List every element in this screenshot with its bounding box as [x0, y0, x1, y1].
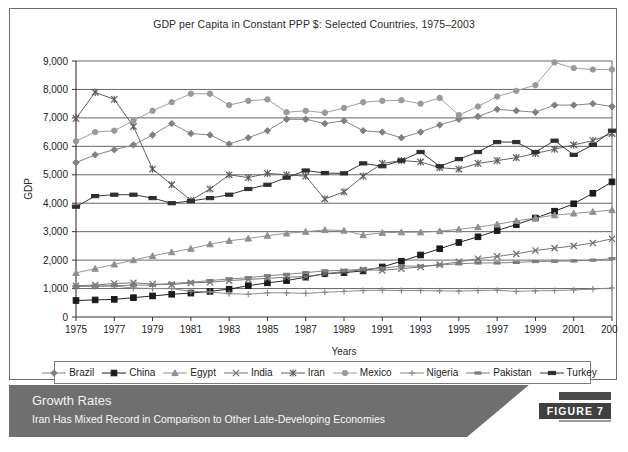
data-point-plus [571, 287, 577, 293]
data-point-circle [112, 128, 117, 133]
data-point-diamond [532, 109, 538, 115]
data-point-diamond [437, 122, 443, 128]
data-point-circle [169, 100, 174, 105]
x-tick-label: 1985 [256, 324, 279, 335]
marker-diamond [437, 122, 443, 128]
data-point-dash [92, 285, 98, 287]
data-point-asterisk [169, 181, 175, 188]
y-tick-label: 2,000 [43, 255, 68, 266]
data-point-square [111, 370, 117, 376]
data-point-plus [590, 286, 596, 292]
data-point-circle [226, 102, 231, 107]
marker-dash [188, 281, 194, 283]
data-point-dash [475, 262, 481, 264]
data-point-thickdash [436, 165, 443, 168]
data-point-circle [246, 98, 251, 103]
marker-circle [150, 108, 155, 113]
legend-label: India [249, 367, 280, 378]
marker-square [111, 370, 117, 376]
marker-diamond [303, 116, 309, 122]
data-point-plus [283, 290, 289, 296]
marker-thickdash [608, 129, 615, 132]
data-point-diamond [92, 152, 98, 158]
legend-item-nigeria[interactable]: Nigeria [399, 367, 466, 379]
legend-item-pakistan[interactable]: Pakistan [465, 367, 538, 379]
marker-dash [207, 279, 213, 281]
marker-thickdash [72, 205, 79, 208]
legend-item-iran[interactable]: Iran [280, 367, 332, 379]
data-point-triangle [609, 207, 615, 213]
marker-thickdash [321, 171, 328, 174]
marker-diamond [283, 116, 289, 122]
data-point-dash [341, 269, 347, 271]
data-point-thickdash [608, 129, 615, 132]
marker-dash [322, 270, 328, 272]
marker-thickdash [187, 199, 194, 202]
marker-square [418, 252, 424, 258]
x-tick-label: 1987 [295, 324, 318, 335]
data-point-thickdash [245, 187, 252, 190]
data-point-diamond [130, 142, 136, 148]
legend-label: Brazil [67, 367, 101, 378]
legend-item-turkey[interactable]: Turkey [539, 367, 604, 379]
data-point-thickdash [589, 143, 596, 146]
data-point-thickdash [92, 195, 99, 198]
marker-dash [552, 260, 558, 262]
legend-label: Egypt [188, 367, 223, 378]
marker-thickdash [245, 187, 252, 190]
marker-square [245, 283, 251, 289]
data-point-circle [341, 105, 346, 110]
legend-marker-asterisk-icon [280, 367, 306, 379]
marker-circle [475, 104, 480, 109]
data-point-diamond [51, 369, 57, 375]
legend-item-brazil[interactable]: Brazil [41, 367, 101, 379]
legend-item-mexico[interactable]: Mexico [332, 367, 399, 379]
data-point-asterisk [111, 96, 117, 103]
x-tick-label: 1981 [180, 324, 203, 335]
marker-diamond [417, 129, 423, 135]
marker-dash [226, 278, 232, 280]
marker-circle [494, 94, 499, 99]
banner-text-group: Growth Rates Iran Has Mixed Record in Co… [32, 392, 385, 427]
data-point-circle [284, 110, 289, 115]
marker-circle [246, 98, 251, 103]
y-tick-label: 0 [62, 312, 68, 323]
data-point-diamond [169, 120, 175, 126]
marker-diamond [551, 102, 557, 108]
plot-area: 01,0002,0003,0004,0005,0006,0007,0008,00… [10, 9, 618, 381]
data-point-asterisk [92, 89, 98, 96]
marker-diamond [322, 120, 328, 126]
legend-marker-thickdash-icon [539, 367, 565, 379]
marker-dash [73, 285, 79, 287]
data-point-asterisk [341, 188, 347, 195]
data-point-thickdash [321, 171, 328, 174]
data-point-thickdash [72, 205, 79, 208]
data-point-square [169, 291, 175, 297]
marker-dash [475, 371, 481, 373]
data-point-plus [408, 369, 414, 375]
legend-label: Iran [306, 367, 332, 378]
legend-label: China [127, 367, 162, 378]
data-point-circle [456, 112, 461, 117]
marker-thickdash [360, 162, 367, 165]
data-point-circle [188, 91, 193, 96]
x-tick-label: 1991 [371, 324, 394, 335]
marker-circle [284, 110, 289, 115]
legend-marker-plus-icon [399, 367, 425, 379]
data-point-circle [571, 65, 576, 70]
data-point-dash [532, 260, 538, 262]
data-point-dash [169, 282, 175, 284]
marker-dash [360, 268, 366, 270]
marker-thickdash [149, 197, 156, 200]
legend-item-india[interactable]: India [223, 367, 280, 379]
marker-diamond [571, 102, 577, 108]
legend-label: Turkey [565, 367, 604, 378]
y-tick-label: 9,000 [43, 56, 68, 67]
data-point-thickdash [417, 150, 424, 153]
legend-item-china[interactable]: China [101, 367, 162, 379]
data-point-circle [92, 129, 97, 134]
data-point-square [437, 246, 443, 252]
y-tick-label: 3,000 [43, 226, 68, 237]
legend-item-egypt[interactable]: Egypt [162, 367, 223, 379]
marker-square [169, 291, 175, 297]
